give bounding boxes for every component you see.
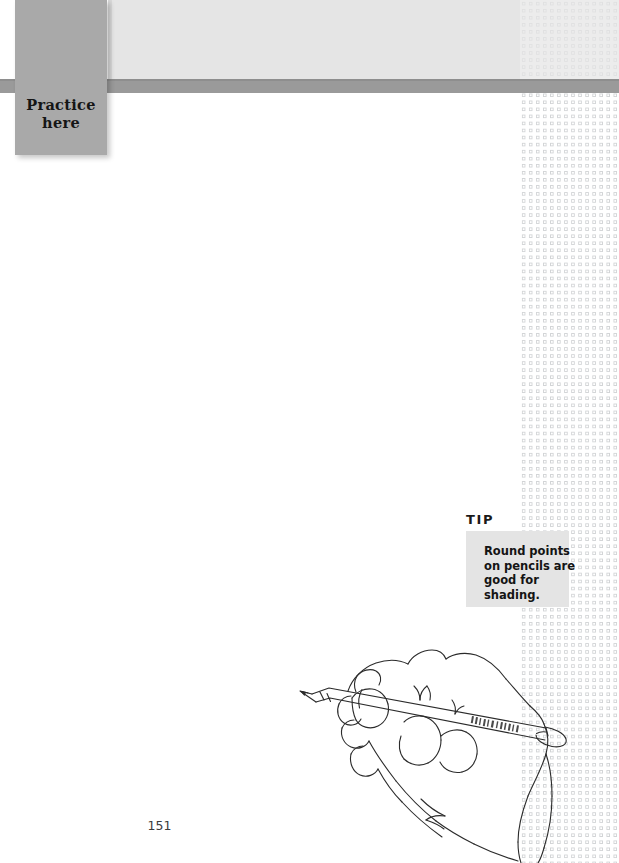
header-band xyxy=(108,0,520,79)
header-band-left-edge xyxy=(108,0,112,79)
tip-body-text: Round points on pencils are good for sha… xyxy=(484,544,576,602)
practice-page: Practice here TIP Round points on pencil… xyxy=(0,0,619,863)
page-number: 151 xyxy=(0,818,619,833)
practice-here-tab-label: Practice here xyxy=(15,96,107,132)
tip-heading: TIP xyxy=(466,512,494,527)
